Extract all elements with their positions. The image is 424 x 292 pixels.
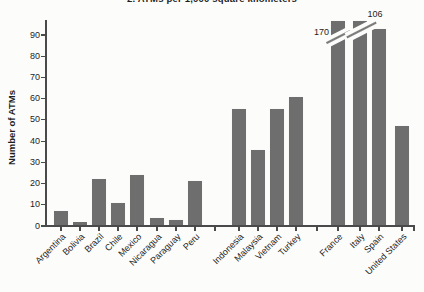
y-tick	[41, 162, 46, 163]
y-tick	[41, 56, 46, 57]
y-axis-title: Number of ATMs	[6, 28, 17, 228]
x-tick	[194, 227, 195, 231]
y-tick-label-20: 20	[16, 178, 40, 189]
bar-vietnam	[270, 109, 284, 226]
x-tick	[401, 227, 402, 231]
chart-title: 2. ATMs per 1,000 square kilometers	[0, 0, 424, 4]
y-tick-label-60: 60	[16, 93, 40, 104]
bar-turkey	[289, 97, 303, 226]
value-label-italy: 106	[355, 9, 395, 19]
x-tick	[238, 227, 239, 231]
x-tick	[117, 227, 118, 231]
y-tick	[41, 119, 46, 120]
x-tick	[276, 227, 277, 231]
x-tick	[316, 227, 317, 231]
bar-italy	[353, 21, 367, 226]
bar-united-states	[395, 126, 409, 226]
x-tick	[378, 227, 379, 231]
y-tick	[41, 183, 46, 184]
x-tick	[98, 227, 99, 231]
bar-brazil	[92, 179, 106, 226]
x-tick	[175, 227, 176, 231]
x-tick	[156, 227, 157, 231]
y-tick-label-10: 10	[16, 199, 40, 210]
y-axis-line	[45, 20, 46, 227]
bar-chile	[111, 203, 125, 226]
y-tick	[41, 98, 46, 99]
x-tick	[136, 227, 137, 231]
y-tick-label-0: 0	[16, 221, 40, 232]
bar-peru	[188, 181, 202, 226]
y-tick-label-70: 70	[16, 72, 40, 83]
x-tick	[257, 227, 258, 231]
bar-argentina	[54, 211, 68, 226]
bar-france	[331, 21, 345, 226]
y-tick-label-90: 90	[16, 30, 40, 41]
y-tick	[41, 225, 46, 226]
y-tick	[41, 77, 46, 78]
bar-mexico	[130, 175, 144, 226]
y-tick	[41, 141, 46, 142]
x-tick	[214, 227, 215, 231]
x-tick	[337, 227, 338, 231]
x-tick	[79, 227, 80, 231]
bar-indonesia	[232, 109, 246, 226]
y-tick	[41, 204, 46, 205]
y-tick-label-50: 50	[16, 114, 40, 125]
x-tick	[359, 227, 360, 231]
value-label-france: 170	[289, 27, 329, 37]
x-tick	[295, 227, 296, 231]
bar-spain	[372, 29, 386, 226]
x-tick	[60, 227, 61, 231]
y-tick-label-40: 40	[16, 136, 40, 147]
y-tick	[41, 34, 46, 35]
bar-malaysia	[251, 150, 265, 226]
y-tick-label-30: 30	[16, 157, 40, 168]
figure: 2. ATMs per 1,000 square kilometers Numb…	[0, 0, 424, 292]
x-tick	[413, 227, 414, 231]
y-tick-label-80: 80	[16, 51, 40, 62]
